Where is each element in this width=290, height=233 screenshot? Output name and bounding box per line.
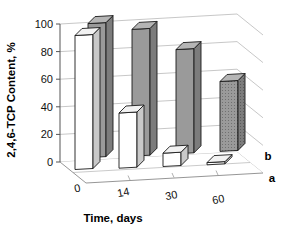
bar-b-day60-side [238,74,245,151]
y-axis [56,24,60,162]
bar-a-day14 [119,105,144,168]
bar-b-day0-side [106,16,113,157]
bar-a-day14-front [119,112,137,168]
y-tick-80: 80 [41,46,53,58]
bar-b-day60-front [220,81,238,152]
bar-b-day14-side [150,21,157,155]
bar-b-day30-front [176,49,194,154]
bar-b-day30-side [194,42,201,153]
x-tick-30: 30 [164,188,178,202]
bar-a-day14-side [137,105,144,167]
y-axis-title: 2,4,6-TCP Content, % [5,42,17,157]
series-labels: b a [264,150,275,184]
y-tick-40: 40 [41,101,53,113]
x-tick-labels: 0 14 30 60 [73,182,225,207]
bar-b-day30 [176,42,201,154]
x-tick-14: 14 [116,185,130,199]
y-tick-0: 0 [47,156,53,168]
bar-a-day0-front [75,35,93,170]
x-axis-title: Time, days [83,212,142,224]
y-tick-60: 60 [41,73,53,85]
chart-canvas: 100 80 60 40 20 0 [0,0,290,233]
y-tick-20: 20 [41,128,53,140]
x-tick-60: 60 [211,192,225,206]
bar-a-day0-side [93,28,100,169]
x-tick-0: 0 [73,182,81,195]
y-tick-labels: 100 80 60 40 20 0 [35,18,53,168]
bar-a-day30-front [163,152,181,166]
series-label-b: b [264,150,271,162]
bar-b-day60 [220,74,245,152]
bar-a-day0 [75,28,100,170]
chart-figure: 100 80 60 40 20 0 [0,0,290,233]
y-tick-100: 100 [35,18,53,30]
series-label-a: a [269,172,276,184]
